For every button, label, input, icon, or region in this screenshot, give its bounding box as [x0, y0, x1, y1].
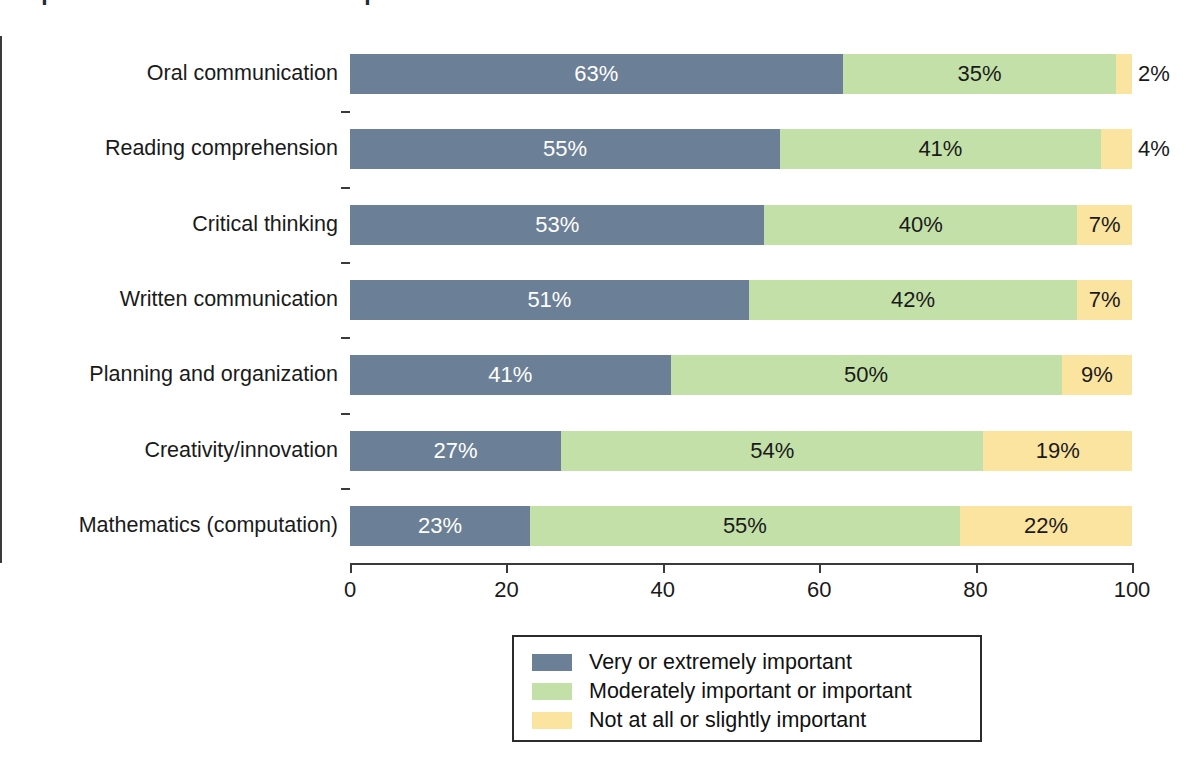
category-label: Planning and organization [0, 362, 338, 387]
bar-segment-value-label: 55% [530, 506, 960, 546]
bar-row: 51%42%7% [350, 280, 1132, 320]
bar-segment-value-label: 7% [1077, 205, 1132, 245]
legend-swatch-icon [532, 712, 572, 729]
legend-label: Very or extremely important [589, 650, 852, 675]
bar-segment-value-label: 55% [350, 129, 780, 169]
bar-segment-value-label: 51% [350, 280, 749, 320]
bar-segment-value-label: 63% [350, 54, 843, 94]
bar-segment-value-label: 2% [1138, 54, 1186, 94]
bar-segment[interactable] [1101, 129, 1132, 169]
x-axis-tick-label: 100 [1092, 577, 1172, 603]
bar-segment-value-label: 35% [843, 54, 1117, 94]
bar-segment-value-label: 22% [960, 506, 1132, 546]
y-axis-tick [341, 111, 350, 113]
legend-label: Not at all or slightly important [589, 708, 866, 733]
bar-segment-value-label: 53% [350, 205, 764, 245]
bar-segment-value-label: 54% [561, 431, 983, 471]
bar-segment[interactable] [1116, 54, 1132, 94]
bar-segment-value-label: 27% [350, 431, 561, 471]
x-axis-tick [350, 563, 352, 573]
bar-segment-value-label: 50% [671, 355, 1062, 395]
bar-row: 41%50%9% [350, 355, 1132, 395]
x-axis-tick [663, 563, 665, 573]
legend-swatch-icon [532, 683, 572, 700]
category-label: Oral communication [0, 61, 338, 86]
x-axis-tick-label: 20 [466, 577, 546, 603]
legend-swatch-icon [532, 654, 572, 671]
y-axis-tick [341, 337, 350, 339]
chart-legend: Very or extremely importantModerately im… [512, 635, 982, 742]
legend-label: Moderately important or important [589, 679, 912, 704]
bar-segment-value-label: 9% [1062, 355, 1132, 395]
bar-segment-value-label: 40% [764, 205, 1077, 245]
category-label: Mathematics (computation) [0, 513, 338, 538]
chart-title: Importance of skills in the workplace [14, 0, 714, 5]
x-axis-tick [819, 563, 821, 573]
y-axis-tick [341, 488, 350, 490]
bar-row: 55%41%4% [350, 129, 1132, 169]
x-axis-tick [1132, 563, 1134, 573]
x-axis-tick-label: 60 [779, 577, 859, 603]
bar-row: 23%55%22% [350, 506, 1132, 546]
bar-row: 53%40%7% [350, 205, 1132, 245]
category-label: Reading comprehension [0, 136, 338, 161]
bar-row: 63%35%2% [350, 54, 1132, 94]
legend-item[interactable]: Very or extremely important [532, 647, 852, 677]
bar-row: 27%54%19% [350, 431, 1132, 471]
x-axis-tick-label: 40 [623, 577, 703, 603]
category-label: Critical thinking [0, 212, 338, 237]
legend-item[interactable]: Moderately important or important [532, 676, 912, 706]
y-axis-tick [341, 187, 350, 189]
category-label: Creativity/innovation [0, 438, 338, 463]
bar-segment-value-label: 4% [1138, 129, 1186, 169]
bar-segment-value-label: 42% [749, 280, 1077, 320]
x-axis-tick [976, 563, 978, 573]
x-axis-line [350, 563, 1134, 565]
x-axis-tick [506, 563, 508, 573]
bar-segment-value-label: 19% [983, 431, 1132, 471]
category-label: Written communication [0, 287, 338, 312]
x-axis-tick-label: 80 [936, 577, 1016, 603]
bar-segment-value-label: 41% [350, 355, 671, 395]
y-axis-tick [341, 413, 350, 415]
legend-item[interactable]: Not at all or slightly important [532, 705, 866, 735]
bar-segment-value-label: 41% [780, 129, 1101, 169]
bar-segment-value-label: 7% [1077, 280, 1132, 320]
bar-segment-value-label: 23% [350, 506, 530, 546]
y-axis-tick [341, 262, 350, 264]
x-axis-tick-label: 0 [310, 577, 390, 603]
stacked-bar-chart: Importance of skills in the workplace 02… [0, 0, 1186, 782]
